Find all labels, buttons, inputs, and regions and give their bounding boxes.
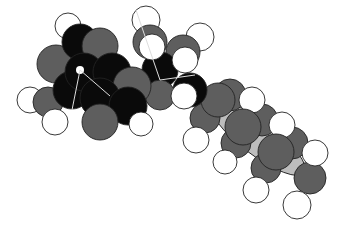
space-filling-model [0, 0, 352, 231]
molecule-figure [0, 0, 352, 231]
